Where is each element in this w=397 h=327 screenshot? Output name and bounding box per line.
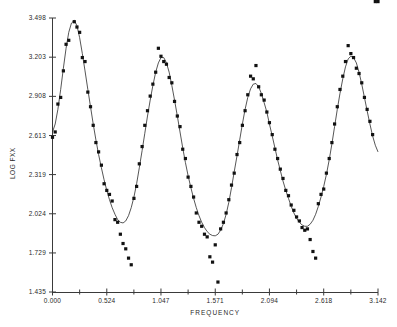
data-point-marker [64,43,67,46]
data-point-marker [311,250,314,253]
x-tick-label: 1.047 [141,297,181,304]
data-point-marker [235,153,238,156]
data-point-marker [197,221,200,224]
data-point-marker [328,157,331,160]
data-point-marker [352,56,355,59]
periodogram-point-markers [51,0,380,284]
y-tick-label: 2.319 [8,171,46,178]
x-axis-title: FREQUENCY [53,309,379,316]
data-point-marker [263,98,266,101]
data-group [51,0,380,284]
data-point-marker [366,108,369,111]
data-point-marker [241,124,244,127]
data-point-marker [290,203,293,206]
theoretical-spectrum-line [53,20,379,235]
x-tick-label: 2.094 [249,297,289,304]
data-point-marker [371,133,374,136]
data-point-marker [252,77,255,80]
data-point-marker [157,47,160,50]
x-tick-label: 0.524 [87,297,127,304]
data-point-marker [178,125,181,128]
data-point-marker [271,133,274,136]
data-point-marker [108,193,111,196]
data-point-marker [265,110,268,113]
data-point-marker [292,209,295,212]
data-point-marker [187,176,190,179]
y-tick-label: 2.908 [8,92,46,99]
data-point-marker [357,72,360,75]
data-point-marker [130,263,133,266]
data-point-marker [165,63,168,66]
data-point-marker [116,221,119,224]
data-point-marker [309,238,312,241]
data-point-marker [173,100,176,103]
data-point-marker [355,67,358,70]
data-point-marker [306,227,309,230]
data-point-marker [276,157,279,160]
data-point-marker [78,31,81,34]
data-point-marker [319,193,322,196]
data-point-marker [273,148,276,151]
data-point-marker [184,157,187,160]
data-point-marker [368,120,371,123]
plot-canvas [0,0,397,327]
data-point-marker [111,199,114,202]
data-point-marker [192,195,195,198]
data-point-marker [181,148,184,151]
data-point-marker [75,25,78,28]
data-point-marker [89,105,92,108]
data-point-marker [314,257,317,260]
data-point-marker [363,96,366,99]
data-point-marker [141,145,144,148]
data-point-marker [159,55,162,58]
y-tick-label: 3.203 [8,53,46,60]
data-point-marker [268,121,271,124]
data-point-marker [94,141,97,144]
data-point-marker [168,76,171,79]
data-point-marker [260,93,263,96]
data-point-marker [124,247,127,250]
data-point-marker [376,0,379,3]
data-point-marker [322,187,325,190]
data-point-marker [281,177,284,180]
data-point-marker [135,185,138,188]
data-point-marker [105,189,108,192]
y-tick-label: 2.613 [8,132,46,139]
data-point-marker [347,44,350,47]
data-point-marker [230,183,233,186]
data-point-marker [279,168,282,171]
data-point-marker [219,227,222,230]
data-point-marker [225,211,228,214]
data-point-marker [195,211,198,214]
data-point-marker [330,141,333,144]
data-point-marker [149,95,152,98]
data-point-marker [246,93,249,96]
data-point-marker [132,197,135,200]
data-point-marker [206,235,209,238]
data-point-marker [121,242,124,245]
data-point-marker [360,81,363,84]
data-point-marker [67,39,70,42]
data-point-marker [73,20,76,23]
data-point-marker [338,88,341,91]
y-tick-label: 2.024 [8,210,46,217]
data-point-marker [214,243,217,246]
data-point-marker [216,280,219,283]
data-point-marker [349,52,352,55]
data-point-marker [284,189,287,192]
data-point-marker [211,261,214,264]
data-point-marker [54,130,57,133]
x-tick-label: 2.618 [304,297,344,304]
data-point-marker [102,182,105,185]
data-point-marker [257,85,260,88]
x-tick-label: 3.142 [358,297,397,304]
data-point-marker [200,225,203,228]
data-point-marker [344,60,347,63]
data-point-marker [227,198,230,201]
data-point-marker [295,215,298,218]
data-point-marker [138,162,141,165]
data-point-marker [336,105,339,108]
data-point-marker [325,172,328,175]
data-point-marker [92,124,95,127]
data-point-marker [176,114,179,117]
